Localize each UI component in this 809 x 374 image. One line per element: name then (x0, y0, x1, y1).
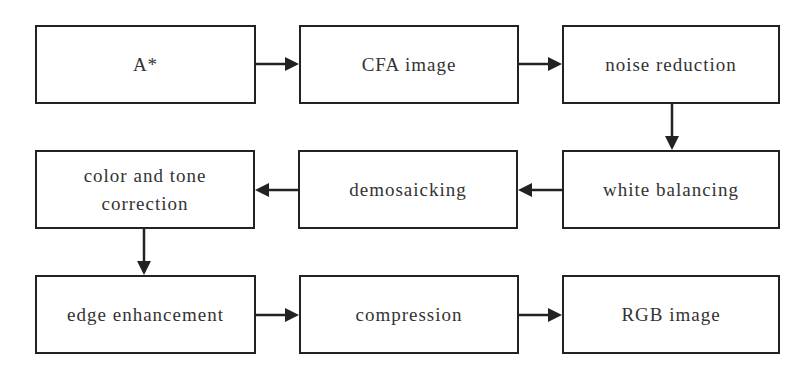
arrow-right-icon (256, 57, 299, 71)
arrow-left-icon (518, 183, 562, 197)
arrow-right-icon (519, 57, 562, 71)
arrow-down-icon (137, 229, 151, 275)
arrow-left-icon (255, 183, 298, 197)
arrow-down-icon (665, 104, 679, 150)
arrow-right-icon (519, 308, 562, 322)
arrow-right-icon (256, 308, 299, 322)
edges-layer (0, 0, 809, 374)
